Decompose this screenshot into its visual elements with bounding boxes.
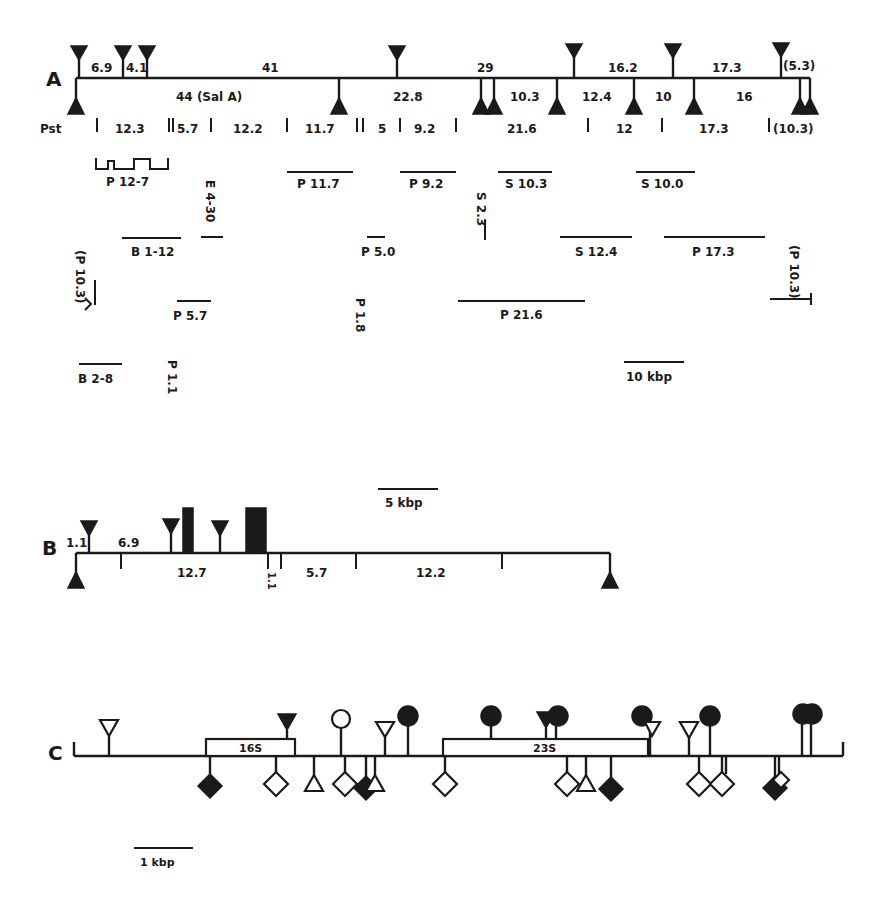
open-diamond-icon — [333, 756, 357, 796]
filled-circle-icon — [548, 706, 568, 739]
svg-text:P 5.7: P 5.7 — [173, 309, 207, 323]
pst-fragment-label: (10.3) — [773, 122, 814, 136]
filled-diamond-icon — [198, 756, 222, 798]
clone-b2-8: B 2-8 — [78, 364, 122, 386]
svg-text:S 12.4: S 12.4 — [575, 245, 617, 259]
svg-text:P 5.0: P 5.0 — [361, 245, 395, 259]
svg-text:B 2-8: B 2-8 — [78, 372, 113, 386]
clone-s12-4: S 12.4 — [560, 237, 632, 259]
svg-text:P 21.6: P 21.6 — [500, 308, 543, 322]
fragment-label: (5.3) — [783, 59, 815, 73]
svg-text:(P 10.3): (P 10.3) — [73, 250, 87, 304]
open-triangle-up-icon — [305, 756, 323, 791]
clone-p21-6: P 21.6 — [458, 301, 585, 322]
site-marker-down-icon — [665, 44, 681, 78]
panel-c-label: C — [48, 741, 63, 765]
site-marker-up-icon — [68, 553, 84, 588]
clone-p1-8: P 1.8 — [353, 298, 367, 332]
fragment-label: 16.2 — [608, 61, 638, 75]
scale-bar-5kbp: 5 kbp — [378, 489, 438, 510]
filled-triangle-down-icon — [278, 714, 296, 739]
site-marker-up-icon — [802, 78, 818, 114]
fragment-label: 17.3 — [712, 61, 742, 75]
restriction-map-figure: A 6.9 4.1 41 29 16.2 — [0, 0, 885, 915]
svg-text:P 12-7: P 12-7 — [106, 175, 149, 189]
open-triangle-down-icon — [376, 722, 394, 756]
svg-text:P 1.1: P 1.1 — [165, 360, 179, 394]
open-diamond-icon — [433, 756, 457, 796]
open-circle-icon — [332, 710, 350, 756]
site-marker-up-icon — [549, 78, 565, 114]
svg-text:E 4-30: E 4-30 — [203, 180, 217, 222]
fragment-label: 10.3 — [510, 90, 540, 104]
filled-diamond-icon — [599, 756, 623, 801]
fragment-label: 12.2 — [416, 566, 446, 580]
pst-fragment-label: 12.2 — [233, 122, 263, 136]
svg-text:P 17.3: P 17.3 — [692, 245, 735, 259]
fragment-label: 5.7 — [306, 566, 327, 580]
svg-text:1 kbp: 1 kbp — [140, 856, 175, 869]
panel-c: C 16S 23S — [48, 704, 843, 869]
clone-b1-12: B 1-12 — [122, 238, 181, 259]
svg-text:P 1.8: P 1.8 — [353, 298, 367, 332]
scale-bar-1kbp: 1 kbp — [134, 848, 193, 869]
svg-text:10 kbp: 10 kbp — [626, 370, 672, 384]
site-marker-down-icon — [163, 519, 179, 553]
svg-text:23S: 23S — [533, 742, 556, 755]
filled-circle-icon — [700, 706, 720, 756]
open-triangle-down-icon — [100, 720, 118, 756]
gene-block — [183, 508, 193, 553]
fragment-label: 10 — [655, 90, 672, 104]
site-marker-up-icon — [626, 78, 642, 114]
open-triangle-down-icon — [680, 722, 698, 756]
fragment-label: 41 — [262, 61, 279, 75]
fragment-label: 29 — [477, 61, 494, 75]
gene-block — [246, 508, 266, 553]
filled-circle-icon — [481, 706, 501, 739]
gene-23s: 23S — [443, 739, 648, 756]
pst-fragment-label: 12 — [616, 122, 633, 136]
pst-fragment-label: 17.3 — [699, 122, 729, 136]
top-sites-a — [71, 43, 789, 78]
site-marker-up-icon — [686, 78, 702, 114]
open-diamond-icon — [264, 756, 288, 796]
fragment-label: 16 — [736, 90, 753, 104]
clone-p1-1: P 1.1 — [165, 360, 179, 394]
pst-fragment-label: 5.7 — [177, 122, 198, 136]
fragment-label: 12.7 — [177, 566, 207, 580]
clone-p12-7: P 12-7 — [96, 158, 168, 189]
svg-text:S 2.3: S 2.3 — [474, 192, 488, 226]
scale-bar-10kbp: 10 kbp — [624, 362, 684, 384]
clone-p11-7: P 11.7 — [287, 172, 353, 191]
pst-fragment-label: 12.3 — [115, 122, 145, 136]
clone-p17-3: P 17.3 — [664, 237, 765, 259]
svg-text:P 9.2: P 9.2 — [409, 177, 443, 191]
site-marker-down-icon — [212, 521, 228, 553]
svg-text:S 10.0: S 10.0 — [641, 177, 683, 191]
fragment-label: 22.8 — [393, 90, 423, 104]
open-triangle-up-icon — [577, 756, 595, 791]
site-marker-up-icon — [486, 78, 502, 114]
pst-fragment-label: 21.6 — [507, 122, 537, 136]
panel-b-label: B — [42, 536, 57, 560]
pst-row-label: Pst — [40, 122, 62, 136]
open-triangle-up-icon — [366, 756, 384, 791]
filled-diamond-icon — [763, 756, 789, 800]
fragment-label: 6.9 — [91, 61, 112, 75]
pst-fragment-label: 11.7 — [305, 122, 335, 136]
svg-text:S 10.3: S 10.3 — [505, 177, 547, 191]
filled-circle-icon — [398, 706, 418, 756]
fragment-label: 12.4 — [582, 90, 612, 104]
site-marker-up-icon — [68, 78, 84, 114]
pst-fragment-label: 9.2 — [414, 122, 435, 136]
clone-p5-0: P 5.0 — [361, 237, 395, 259]
open-diamond-icon — [710, 756, 734, 796]
clone-p5-7: P 5.7 — [173, 301, 211, 323]
site-marker-up-icon — [473, 78, 489, 114]
svg-text:(P 10.3): (P 10.3) — [787, 245, 801, 299]
svg-text:P 11.7: P 11.7 — [297, 177, 340, 191]
svg-text:B 1-12: B 1-12 — [131, 245, 174, 259]
fragment-label: 6.9 — [118, 536, 139, 550]
fragment-label: 4.1 — [126, 61, 147, 75]
gene-16s: 16S — [206, 739, 295, 756]
